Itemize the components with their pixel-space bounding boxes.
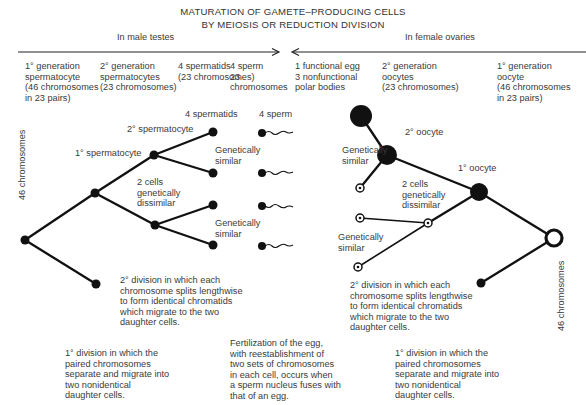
label-4-sperm: 4 sperm bbox=[259, 109, 292, 120]
label-female-dissimilar: 2 cells genetically dissimilar bbox=[402, 179, 445, 211]
label-male-first-division: 1° division in which the paired chromoso… bbox=[65, 348, 169, 401]
female-stage-3: 1° generation oocyte (46 chromosomes in … bbox=[497, 61, 571, 103]
sperm-icon bbox=[258, 169, 293, 177]
female-side-label: 46 chromosomes bbox=[556, 261, 566, 331]
sperm-icon bbox=[258, 242, 293, 250]
oogonium-root-node bbox=[546, 230, 562, 246]
label-primary-spermatocyte: 1° spermatocyte bbox=[75, 148, 141, 159]
female-tree-nodes bbox=[350, 105, 562, 288]
primary-oocyte-node bbox=[470, 183, 488, 201]
functional-egg bbox=[350, 105, 372, 127]
male-stage-2: 2° generation spermatocytes (23 chromoso… bbox=[100, 61, 177, 93]
female-stage-1: 1 functional egg 3 nonfunctional polar b… bbox=[295, 61, 360, 93]
label-female-first-division: 1° division in which the paired chromoso… bbox=[395, 348, 499, 401]
label-male-similar-bottom: Genetically similar bbox=[215, 218, 260, 239]
label-male-second-division: 2° division in which each chromosome spl… bbox=[120, 275, 243, 328]
label-4-spermatids: 4 spermatids bbox=[185, 109, 238, 120]
label-female-second-division: 2° division in which each chromosome spl… bbox=[350, 280, 473, 333]
sperm-icon bbox=[258, 202, 293, 210]
male-stage-1: 1° generation spermatocyte (46 chromosom… bbox=[25, 61, 99, 103]
label-male-dissimilar: 2 cells genetically dissimilar bbox=[137, 177, 180, 209]
male-stage-4: 4 sperm 23 chromosomes bbox=[230, 61, 288, 93]
female-tree-lines bbox=[360, 116, 554, 283]
label-male-similar-top: Genetically similar bbox=[215, 145, 260, 166]
label-secondary-oocyte: 2° oocyte bbox=[405, 127, 443, 138]
sperm-icon bbox=[258, 129, 293, 137]
label-female-similar-bottom: Genetically similar bbox=[338, 232, 383, 253]
sperm-icons bbox=[258, 129, 293, 250]
male-side-label: 46 chromosomes bbox=[17, 130, 27, 200]
female-stage-2: 2° generation oocytes (23 chromosomes) bbox=[382, 61, 459, 93]
label-secondary-spermatocyte: 2° spermatocyte bbox=[127, 124, 193, 135]
label-primary-oocyte: 1° oocyte bbox=[458, 163, 496, 174]
fertilization-note: Fertilization of the egg, with reestabli… bbox=[230, 338, 341, 402]
male-direction-arrow bbox=[18, 49, 279, 56]
female-direction-arrow bbox=[292, 49, 586, 56]
label-female-similar-top: Genetically similar bbox=[342, 145, 387, 166]
